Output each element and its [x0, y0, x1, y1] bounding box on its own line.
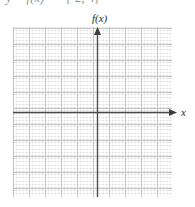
coordinate-grid [13, 27, 172, 197]
header-fragment-line: y = f(x)[-2, 4] [6, 0, 99, 6]
header-interval: [-2, 4] [66, 0, 98, 5]
x-axis-label: x [181, 106, 186, 118]
major-gridlines [13, 27, 172, 197]
y-axis-label: f(x) [92, 12, 107, 24]
minor-grid-dot-mask-vertical [13, 27, 172, 197]
cropped-header-text: y = f(x)[-2, 4] [0, 0, 195, 7]
header-function-expression: y = f(x) [6, 0, 44, 5]
minor-grid-dot-mask-horizontal [13, 27, 172, 197]
graph-screenshot: y = f(x)[-2, 4] f(x) x [0, 0, 195, 207]
